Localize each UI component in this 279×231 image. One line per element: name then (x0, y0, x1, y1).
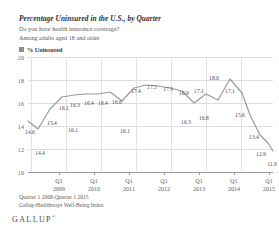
data-point-label: 16.1 (120, 128, 130, 134)
x-axis-label-year: 2011 (114, 185, 144, 193)
data-point-label: 17.1 (194, 88, 204, 94)
gallup-logo-text: GALLUP (12, 215, 52, 224)
y-axis-label-18: 18 (10, 77, 24, 84)
data-point-label: 16.4 (98, 100, 108, 106)
x-axis-label: Q12010 (79, 177, 109, 193)
y-axis-label-16: 16 (10, 100, 24, 107)
footer-date-range: Quarter 1 2008-Quarter 1 2015 (19, 194, 89, 200)
x-axis-tick (199, 172, 200, 175)
data-point-label: 16.6 (112, 99, 122, 105)
data-point-label: 17.3 (163, 86, 173, 92)
data-point-label: 14.6 (25, 129, 35, 135)
data-point-label: 16.9 (179, 90, 189, 96)
x-axis-tick (129, 172, 130, 175)
x-axis-tick (59, 172, 60, 175)
plot-area: 14.614.415.416.116.116.316.416.416.616.1… (28, 57, 273, 172)
data-point-label: 16.8 (199, 115, 209, 121)
page-title: Percentage Uninsured in the U.S., by Qua… (19, 14, 161, 23)
x-axis-label: Q12015 (254, 177, 279, 193)
y-axis-label-20: 20 (10, 54, 24, 61)
data-point-label: 13.4 (249, 134, 259, 140)
data-point-label: 14.4 (35, 150, 45, 156)
x-axis-label-year: 2012 (149, 185, 179, 193)
legend-item-label: % Uninsured (27, 46, 62, 53)
x-axis-label-year: 2014 (219, 185, 249, 193)
data-point-label: 12.9 (256, 151, 266, 157)
x-axis-label-year: 2013 (184, 185, 214, 193)
data-point-label: 16.3 (70, 102, 80, 108)
x-axis-line (28, 172, 273, 173)
data-point-label: 16.1 (59, 105, 69, 111)
x-axis-tick (234, 172, 235, 175)
x-axis-label-quarter: Q1 (79, 177, 109, 185)
data-point-label: 16.3 (181, 119, 191, 125)
x-axis-label-quarter: Q1 (44, 177, 74, 185)
x-axis-tick (164, 172, 165, 175)
x-axis-label-quarter: Q1 (114, 177, 144, 185)
registered-mark-icon: ® (52, 214, 56, 219)
x-axis-label-quarter: Q1 (219, 177, 249, 185)
y-axis-label-10: 10 (10, 169, 24, 176)
x-axis-label: Q12011 (114, 177, 144, 193)
x-axis-label-year: 2015 (254, 185, 279, 193)
data-point-label: 16.4 (84, 100, 94, 106)
data-point-label: 16.1 (68, 127, 78, 133)
x-axis-label: Q12014 (219, 177, 249, 193)
data-point-label: 18.0 (209, 75, 219, 81)
x-axis-label: Q12009 (44, 177, 74, 193)
chart-legend: % Uninsured (19, 46, 62, 53)
y-axis-label-12: 12 (10, 146, 24, 153)
gallup-logo: GALLUP® (12, 214, 56, 224)
data-point-label: 15.4 (47, 120, 57, 126)
x-axis-label-quarter: Q1 (184, 177, 214, 185)
x-axis-label-year: 2010 (79, 185, 109, 193)
chart-subtitle-question: Do you have health insurance coverage? (19, 25, 119, 32)
data-point-label: 11.9 (267, 161, 277, 167)
x-axis-label-year: 2009 (44, 185, 74, 193)
x-axis-label: Q12012 (149, 177, 179, 193)
x-axis-label: Q12013 (184, 177, 214, 193)
chart-subtitle-population: Among adults aged 18 and older (19, 34, 100, 41)
x-axis-tick (269, 172, 270, 175)
x-axis-tick (94, 172, 95, 175)
legend-square-icon (19, 47, 24, 52)
data-point-label: 17.5 (147, 84, 157, 90)
data-point-label: 15.6 (235, 112, 245, 118)
x-axis-label-quarter: Q1 (149, 177, 179, 185)
data-point-label: 17.4 (131, 88, 141, 94)
footer-source: Gallup-Healthways Well-Being Index (19, 202, 104, 208)
data-point-label: 17.1 (225, 88, 235, 94)
y-axis-label-14: 14 (10, 123, 24, 130)
x-axis-label-quarter: Q1 (254, 177, 279, 185)
chart-container: Percentage Uninsured in the U.S., by Qua… (0, 0, 279, 231)
